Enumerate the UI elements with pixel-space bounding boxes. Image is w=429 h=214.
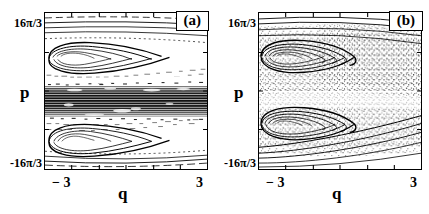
panel-a-xtick-right: 3 [196,176,203,190]
panel-b-label: (b) [389,11,423,31]
panel-b-canvas [259,13,421,169]
panel-b-plot-frame [258,12,422,170]
panel-a-xtick-left: − 3 [52,176,70,190]
panel-a-ytick-top: 16π/3 [2,17,42,29]
panel-b-yaxis-label: p [234,84,243,101]
panel-a: (a) [44,12,208,170]
panel-b-xtick-left: − 3 [266,176,284,190]
panel-a-xaxis-label: q [118,185,127,202]
figure-phase-space-sections: (a) [0,0,429,214]
panel-a-yaxis-label: p [20,84,29,101]
panel-a-label: (a) [176,11,210,31]
panel-a-plot-frame [44,12,208,170]
panel-b-xaxis-label: q [332,185,341,202]
panel-b: (b) [258,12,422,170]
panel-b-ytick-bottom: -16π/3 [214,157,256,169]
panel-a-orbits [45,13,207,169]
panel-b-xtick-right: 3 [410,176,417,190]
panel-b-ytick-top: 16π/3 [216,17,256,29]
panel-a-chaotic-band [45,76,207,127]
panel-a-canvas [45,13,207,169]
panel-a-ytick-bottom: -16π/3 [0,157,42,169]
panel-b-orbits [259,13,421,169]
